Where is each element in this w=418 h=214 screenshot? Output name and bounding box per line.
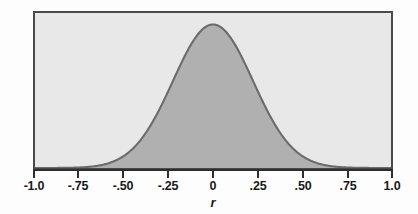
x-axis-tick-mark (347, 171, 349, 178)
x-axis-tick-mark (257, 171, 259, 178)
x-axis-tick-mark (77, 171, 79, 178)
curve-fill-area (35, 24, 391, 168)
x-axis-tick-mark (302, 171, 304, 178)
x-axis-tick-mark (167, 171, 169, 178)
normal-distribution-figure: -1.0-.75-.50-.250.25.50.751.0 r (0, 0, 418, 214)
x-axis-tick-mark (33, 171, 35, 178)
x-axis-tick-mark (391, 171, 393, 178)
x-axis-tick-label: 1.0 (362, 179, 418, 193)
x-axis-tick-mark (212, 171, 214, 178)
distribution-curve-svg (35, 13, 391, 168)
x-axis-tick-mark (122, 171, 124, 178)
plot-frame (33, 11, 393, 170)
x-axis-title: r (183, 195, 243, 210)
